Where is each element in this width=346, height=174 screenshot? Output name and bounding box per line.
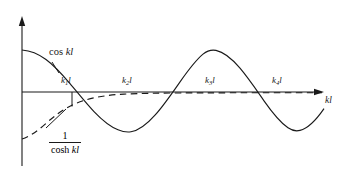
root-2-subscript: 2 [126,79,129,86]
y-axis [19,16,25,166]
root-1-suffix: l [68,75,71,85]
cosh-label-leader [46,109,66,128]
root-4-suffix: l [279,75,282,85]
x-axis-label: kl [325,96,332,106]
fraction-denominator-arg: kl [72,144,79,155]
curve-label-inv-cosh: 1 cosh kl [49,131,81,155]
root-4-subscript: 4 [276,79,279,86]
root-1-subscript: 1 [65,79,68,86]
root-3-subscript: 3 [209,79,212,86]
root-label-2: k2l [122,76,132,85]
figure-canvas: cos kl k1l k2l k3l k4l kl 1 cosh kl [0,0,346,174]
fraction-denominator: cosh kl [49,144,81,155]
curve-label-cos-fn: cos [49,46,63,57]
root-label-3: k3l [205,76,215,85]
curve-label-cos: cos kl [49,47,73,58]
root-label-4: k4l [272,76,282,85]
root-2-suffix: l [129,75,132,85]
cos-label-leader [52,62,59,73]
root-3-suffix: l [212,75,215,85]
fraction-numerator: 1 [49,131,81,142]
curve-cos-kl [22,50,324,132]
curve-label-cos-arg: kl [66,46,74,57]
root-label-1: k1l [61,76,71,85]
fraction-denominator-fn: cosh [51,144,69,155]
